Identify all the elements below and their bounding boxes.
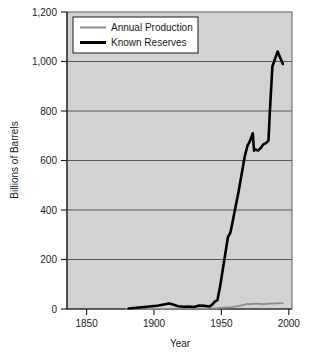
line-chart: 1,200 1,000 800 600 400 200 0 1850 1900 … — [0, 0, 314, 359]
y-axis-title: Billions of Barrels — [9, 121, 20, 198]
y-tick-label: 1,000 — [32, 56, 57, 67]
x-axis-title: Year — [170, 338, 191, 349]
y-tick-label: 800 — [40, 106, 57, 117]
y-tick-label: 600 — [40, 155, 57, 166]
x-tick-label: 2000 — [278, 318, 301, 329]
legend: Annual Production Known Reserves — [73, 17, 198, 53]
y-tick-label: 200 — [40, 254, 57, 265]
y-tick-label: 0 — [51, 304, 57, 315]
y-tick-label: 1,200 — [32, 7, 57, 18]
y-tick-label: 400 — [40, 205, 57, 216]
legend-label-known-reserves: Known Reserves — [111, 37, 187, 48]
x-tick-label: 1900 — [143, 318, 166, 329]
x-tick-label: 1950 — [210, 318, 233, 329]
x-tick-label: 1850 — [75, 318, 98, 329]
legend-label-annual-production: Annual Production — [111, 22, 193, 33]
chart-container: 1,200 1,000 800 600 400 200 0 1850 1900 … — [0, 0, 314, 359]
